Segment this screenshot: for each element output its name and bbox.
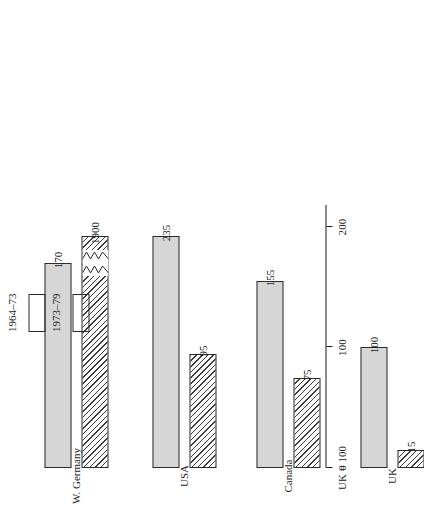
category-label: UK (387, 468, 398, 484)
bar-usa-1964-73 (152, 236, 179, 468)
bar-value-label: 235 (160, 225, 171, 242)
bar-value-label: 75 (301, 369, 312, 380)
bar-value-label: 95 (197, 345, 208, 356)
legend-label-1973-79: 1973–79 (50, 294, 61, 333)
bar-usa-1973-79 (189, 354, 216, 468)
legend-swatch-1973-79 (72, 294, 89, 332)
bar-w-germany-1973-79 (81, 236, 108, 468)
bar-value-label: 170 (52, 252, 63, 269)
axis-tick-200 (326, 226, 332, 227)
value-axis-line (325, 205, 326, 468)
axis-tick-label-100: 100 (336, 339, 347, 356)
bar-value-label: 100 (368, 336, 379, 353)
category-label: Canada (283, 460, 294, 493)
axis-tick-100 (326, 347, 332, 348)
bar-uk-1964-73 (360, 348, 387, 469)
bar-value-label: 155 (264, 270, 275, 287)
category-label: USA (179, 465, 190, 487)
bar-value-label: 1900 (89, 222, 100, 244)
bar-value-label: 15 (405, 441, 416, 452)
axis-tick-label-200: 200 (336, 218, 347, 235)
axis-tick-0 (326, 467, 332, 468)
bar-canada-1973-79 (293, 378, 320, 468)
category-label: W. Germany (71, 448, 82, 504)
axis-tick-label-0: 0 (336, 465, 347, 471)
legend-swatch-1964-73 (28, 294, 45, 332)
bar-canada-1964-73 (256, 281, 283, 468)
bar-uk-1973-79 (397, 450, 424, 468)
legend-label-1964-73: 1964–73 (6, 294, 17, 333)
